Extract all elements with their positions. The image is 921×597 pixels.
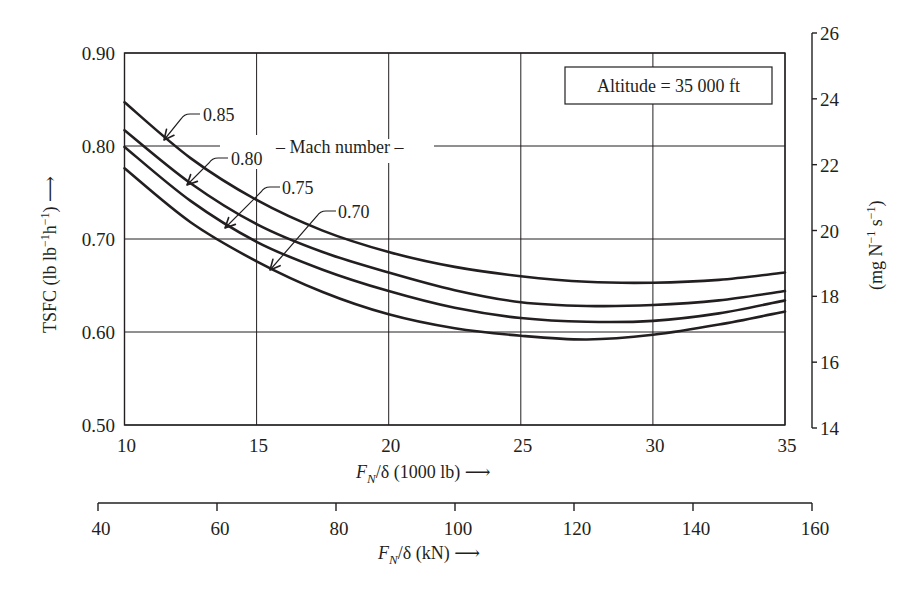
- x-secondary-tick-label: 100: [444, 518, 473, 539]
- x-tick-label: 35: [778, 435, 797, 456]
- x-secondary-tick-label: 60: [211, 518, 230, 539]
- y-tick-label: 0.60: [82, 322, 115, 343]
- y-right-axis-title: (mg N−1 s−1): [864, 200, 887, 290]
- x-secondary-axis-title: FN/δ (kN) ⟶: [377, 543, 480, 567]
- y-right-tick-label: 16: [820, 352, 839, 373]
- x-secondary-axis: 406080100120140160: [92, 503, 830, 539]
- y-left-axis-title: TSFC (lb lb−1h−1) ⟶: [38, 176, 61, 333]
- y-left-ticks: 0.500.600.700.800.90: [82, 43, 115, 436]
- leader-line-0.85: [164, 114, 200, 140]
- series-label-0.75: 0.75: [282, 178, 314, 198]
- mach-curves: [125, 102, 786, 339]
- y-right-tick-label: 18: [820, 286, 839, 307]
- series-label-0.70: 0.70: [338, 202, 370, 222]
- curve-mach-0.80: [125, 130, 786, 306]
- y-right-tick-label: 24: [820, 89, 840, 110]
- x-secondary-tick-label: 80: [330, 518, 349, 539]
- y-right-axis: 14161820222426: [812, 23, 840, 439]
- y-tick-label: 0.90: [82, 43, 115, 64]
- y-tick-label: 0.50: [82, 415, 115, 436]
- x-tick-label: 25: [513, 435, 532, 456]
- y-right-tick-label: 14: [820, 418, 840, 439]
- x-secondary-tick-label: 160: [801, 518, 830, 539]
- y-right-tick-label: 22: [820, 155, 839, 176]
- series-label-0.85: 0.85: [203, 105, 235, 125]
- tsfc-chart: 0.500.600.700.800.90 101520253035 141618…: [0, 0, 921, 597]
- x-tick-label: 30: [645, 435, 664, 456]
- x-tick-label: 15: [249, 435, 268, 456]
- x-primary-ticks: 101520253035: [117, 435, 797, 456]
- y-tick-label: 0.80: [82, 136, 115, 157]
- altitude-label: Altitude = 35 000 ft: [597, 76, 740, 96]
- legend-title-mach-number: – Mach number –: [275, 137, 404, 157]
- x-tick-label: 10: [117, 435, 136, 456]
- x-secondary-tick-label: 40: [92, 518, 111, 539]
- x-secondary-tick-label: 120: [563, 518, 592, 539]
- x-primary-axis-title: FN/δ (1000 lb) ⟶: [355, 462, 491, 486]
- y-right-tick-label: 20: [820, 221, 839, 242]
- y-tick-label: 0.70: [82, 229, 115, 250]
- curve-mach-0.75: [125, 147, 786, 322]
- curve-mach-0.70: [125, 168, 786, 339]
- series-label-0.80: 0.80: [231, 149, 263, 169]
- x-tick-label: 20: [381, 435, 400, 456]
- y-right-tick-label: 26: [820, 23, 839, 44]
- curve-mach-0.85: [125, 102, 786, 283]
- x-secondary-tick-label: 140: [682, 518, 711, 539]
